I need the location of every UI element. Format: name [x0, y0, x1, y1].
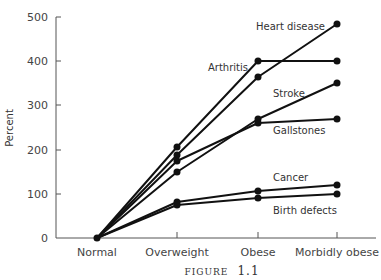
y-tick-label: 100 — [27, 188, 48, 201]
series-label-cancer: Cancer — [273, 172, 309, 183]
y-tick-label: 500 — [27, 11, 48, 24]
y-axis — [56, 17, 61, 238]
y-tick-label: 400 — [27, 55, 48, 68]
series-label-birth-defects: Birth defects — [273, 205, 337, 216]
y-tick-label: 300 — [27, 99, 48, 112]
x-tick-label: Overweight — [145, 246, 209, 259]
x-tick-label: Obese — [241, 246, 276, 259]
series-label-arthritis: Arthritis — [208, 62, 248, 73]
y-tick-label: 200 — [27, 144, 48, 157]
series-label-gallstones: Gallstones — [273, 125, 325, 136]
x-tick-label: Normal — [77, 246, 117, 259]
series-label-stroke: Stroke — [273, 88, 305, 99]
series-label-heart-disease: Heart disease — [256, 21, 325, 32]
chart: 0 100 200 300 400 500 Percent Normal Ove… — [0, 0, 381, 280]
x-tick-label: Morbidly obese — [295, 246, 379, 259]
figure-caption: FIGURE 1.1 — [184, 260, 259, 279]
y-axis-title: Percent — [4, 109, 15, 147]
y-tick-label: 0 — [41, 232, 48, 245]
